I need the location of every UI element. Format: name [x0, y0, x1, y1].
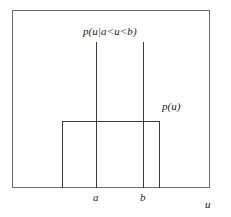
probability-density-figure: p(u|a<u<b) p(u) a b u [0, 0, 231, 217]
tick-label-b: b [140, 192, 146, 203]
conditional-density-right-edge [143, 42, 144, 188]
conditional-density-left-edge [96, 42, 97, 188]
conditional-density-label: p(u|a<u<b) [83, 26, 137, 37]
marginal-density-label: p(u) [162, 101, 180, 112]
marginal-density-rectangle [62, 121, 160, 188]
tick-label-a: a [93, 192, 99, 203]
axis-label-u: u [205, 199, 211, 210]
